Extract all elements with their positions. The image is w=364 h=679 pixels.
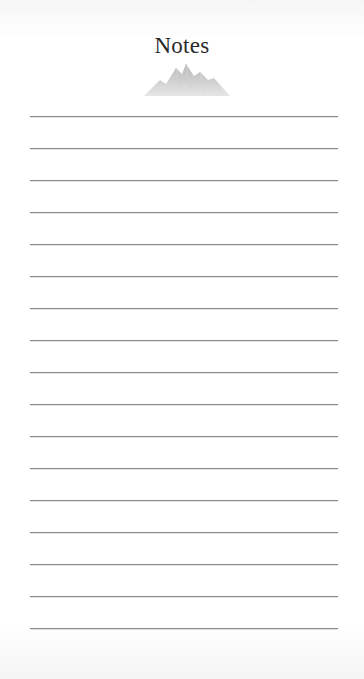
writing-line xyxy=(30,532,338,533)
ruled-lines xyxy=(30,116,338,660)
writing-line xyxy=(30,628,338,629)
writing-line xyxy=(30,500,338,501)
writing-line xyxy=(30,436,338,437)
writing-line xyxy=(30,564,338,565)
writing-line xyxy=(30,244,338,245)
page-title: Notes xyxy=(0,33,364,59)
writing-line xyxy=(30,372,338,373)
writing-line xyxy=(30,116,338,117)
writing-line xyxy=(30,148,338,149)
notepad-page: Notes xyxy=(0,0,364,679)
writing-line xyxy=(30,596,338,597)
writing-line xyxy=(30,276,338,277)
writing-line xyxy=(30,308,338,309)
writing-line xyxy=(30,212,338,213)
mountains-icon xyxy=(142,58,232,98)
writing-line xyxy=(30,468,338,469)
writing-line xyxy=(30,180,338,181)
writing-line xyxy=(30,404,338,405)
writing-line xyxy=(30,340,338,341)
